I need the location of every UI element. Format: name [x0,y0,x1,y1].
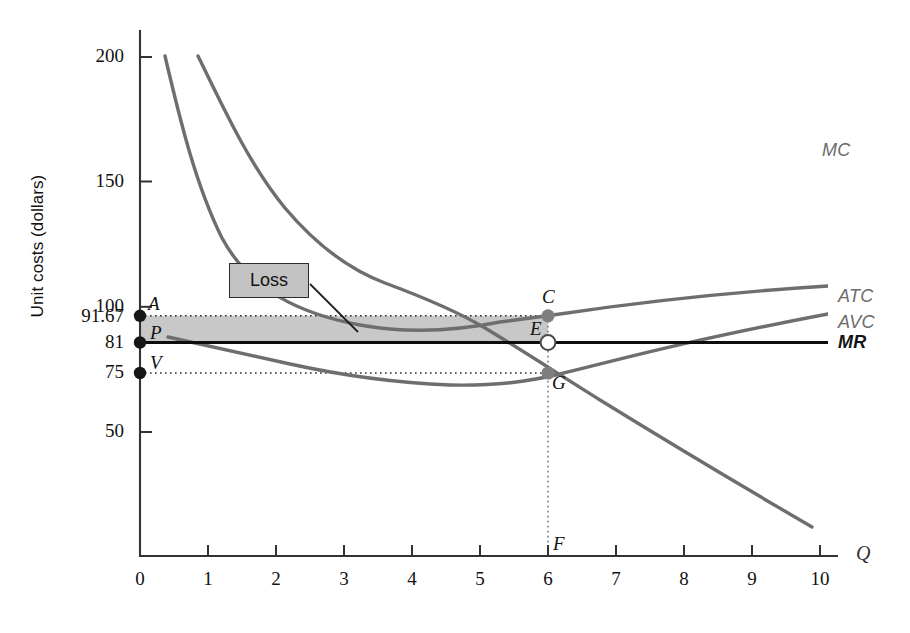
y-tick-label-75: 75 [66,361,124,383]
curve-label-avc: AVC [838,312,875,333]
x-tick-label-9: 9 [737,568,767,590]
curve-label-mr: MR [838,332,867,353]
y-tick-label-200: 200 [66,45,124,67]
point-label-c: C [542,286,555,308]
y-tick-label-81: 81 [66,331,124,353]
point-label-p: P [150,322,162,344]
chart-canvas [0,0,910,633]
x-tick-label-8: 8 [669,568,699,590]
x-tick-label-5: 5 [465,568,495,590]
y-tick-label-91-67: 91.67 [30,305,124,327]
point-marker-c [541,309,554,322]
x-tick-label-4: 4 [397,568,427,590]
x-axis-ticks [208,545,820,556]
point-marker-a [134,310,146,322]
point-marker-e [541,335,556,350]
point-label-g: G [552,372,566,394]
x-tick-label-0: 0 [125,568,155,590]
x-tick-label-6: 6 [533,568,563,590]
y-tick-label-50: 50 [66,420,124,442]
x-tick-label-10: 10 [803,568,837,590]
point-label-v: V [150,352,162,374]
loss-annotation-box: Loss [229,263,309,298]
chart-figure: Unit costs (dollars) 200 150 100 91.67 8… [0,0,910,633]
x-tick-label-1: 1 [193,568,223,590]
y-axis-title: Unit costs (dollars) [28,116,48,376]
point-marker-p [134,336,146,348]
x-tick-label-3: 3 [329,568,359,590]
point-marker-v [134,367,146,379]
y-tick-label-150: 150 [66,170,124,192]
point-label-e: E [530,318,542,340]
point-label-f: F [553,533,565,555]
x-tick-label-7: 7 [601,568,631,590]
point-label-a: A [148,293,160,315]
x-tick-label-2: 2 [261,568,291,590]
curve-label-atc: ATC [838,286,874,307]
x-axis-symbol: Q [856,542,870,565]
curve-label-mc: MC [822,140,851,161]
